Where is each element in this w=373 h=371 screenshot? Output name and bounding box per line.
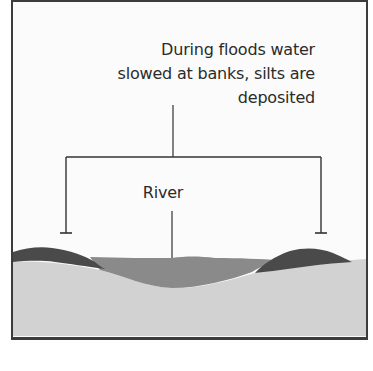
annotation-line-2: slowed at banks, silts are (55, 62, 315, 86)
annotation-line-3: deposited (55, 86, 315, 110)
annotation-line-1: During floods water (55, 38, 315, 62)
river-label: River (138, 183, 188, 203)
deposition-annotation: During floods water slowed at banks, sil… (55, 38, 315, 110)
